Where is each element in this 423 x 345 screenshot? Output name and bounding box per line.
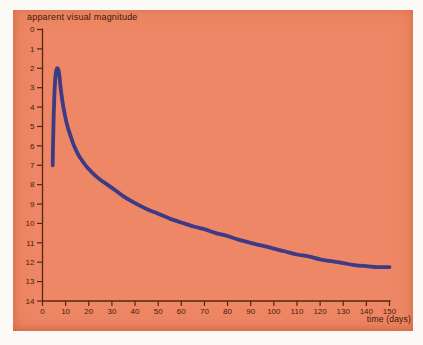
y-tick-label: 9 — [30, 200, 35, 209]
light-curve-chart: 0123456789101112131401020304050607080901… — [0, 0, 423, 345]
nova-light-curve — [53, 68, 390, 267]
y-tick-label: 13 — [26, 277, 35, 286]
y-tick-label: 12 — [26, 258, 35, 267]
figure-page: apparent visual magnitude time (days) 01… — [0, 0, 423, 345]
y-tick-label: 2 — [30, 64, 35, 73]
y-tick-label: 7 — [30, 161, 35, 170]
x-tick-label: 10 — [61, 307, 70, 316]
y-tick-label: 1 — [30, 45, 35, 54]
y-tick-label: 6 — [30, 142, 35, 151]
x-tick-label: 130 — [337, 307, 351, 316]
y-tick-label: 11 — [26, 239, 35, 248]
x-tick-label: 90 — [246, 307, 255, 316]
x-tick-label: 70 — [200, 307, 209, 316]
x-tick-label: 50 — [154, 307, 163, 316]
x-tick-label: 20 — [84, 307, 93, 316]
y-tick-label: 5 — [30, 122, 35, 131]
y-tick-label: 8 — [30, 180, 35, 189]
x-tick-label: 30 — [107, 307, 116, 316]
x-tick-label: 140 — [360, 307, 374, 316]
x-tick-label: 150 — [383, 307, 397, 316]
y-tick-label: 3 — [30, 83, 35, 92]
x-tick-label: 40 — [131, 307, 140, 316]
y-tick-label: 14 — [26, 297, 35, 306]
x-tick-label: 110 — [291, 307, 304, 316]
y-tick-label: 0 — [30, 25, 35, 34]
x-tick-label: 80 — [223, 307, 232, 316]
x-tick-label: 120 — [313, 307, 327, 316]
x-tick-label: 60 — [177, 307, 186, 316]
y-tick-label: 4 — [30, 103, 35, 112]
x-tick-label: 100 — [267, 307, 281, 316]
y-tick-label: 10 — [26, 219, 35, 228]
x-tick-label: 0 — [40, 307, 45, 316]
